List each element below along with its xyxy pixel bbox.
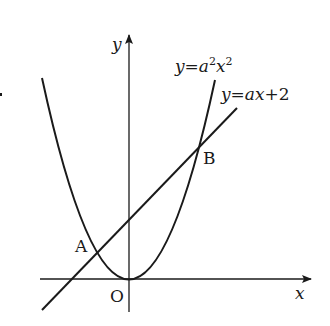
coordinate-diagram: y x O A B y=a2x2 y=ax+2 [0,0,330,326]
line-curve [42,108,237,310]
stray-mark [0,93,2,96]
parabola-equation-label: y=a2x2 [174,55,233,76]
line-equation-label: y=ax+2 [220,84,290,104]
y-axis-label: y [111,34,122,54]
point-b-label: B [203,148,216,168]
origin-label: O [110,286,124,306]
point-a-label: A [74,236,88,256]
x-axis-label: x [295,283,305,303]
